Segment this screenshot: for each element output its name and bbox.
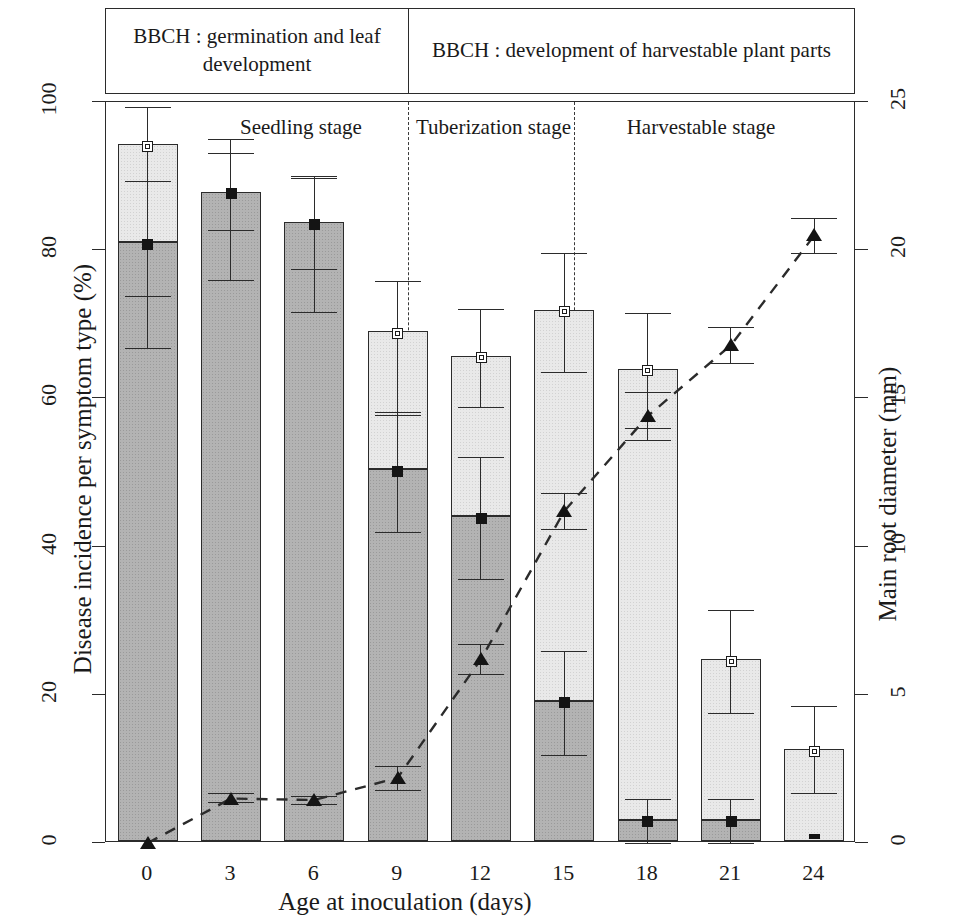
marker-total-incidence-day-0[interactable]	[142, 141, 153, 152]
error-cap-top-total-day-12	[458, 309, 504, 310]
error-cap-bottom-total-day-12	[458, 407, 504, 408]
error-cap-top-root-day-18	[625, 392, 671, 393]
marker-dark-incidence-day-24[interactable]	[809, 834, 820, 839]
y-tick-label-left: 60	[36, 355, 62, 435]
error-cap-top-total-day-24	[791, 706, 837, 707]
error-cap-bottom-root-day-18	[625, 440, 671, 441]
marker-total-incidence-day-9[interactable]	[392, 328, 403, 339]
error-cap-top-total-day-15	[541, 253, 587, 254]
bbch-box-germination: BBCH : germination and leaf development	[106, 9, 409, 93]
y-tick-right	[855, 546, 868, 547]
error-cap-top-total-day-0	[125, 107, 171, 108]
plot-area: Seedling stage Tuberization stage Harves…	[105, 101, 855, 842]
y-tick-label-left: 100	[36, 59, 62, 139]
marker-total-incidence-day-15[interactable]	[559, 306, 570, 317]
marker-total-incidence-day-24[interactable]	[809, 746, 820, 757]
marker-dark-incidence-day-12[interactable]	[476, 513, 487, 524]
y-tick-label-right: 0	[885, 805, 911, 875]
error-cap-bottom-dark-day-21	[708, 843, 754, 844]
error-bar-dark-day-3	[230, 139, 231, 280]
y-tick-label-left: 20	[36, 652, 62, 732]
error-cap-top-root-day-21	[708, 327, 754, 328]
x-tick-label: 15	[533, 860, 593, 886]
y-tick-label-left: 40	[36, 504, 62, 584]
marker-dark-incidence-day-9[interactable]	[392, 466, 403, 477]
error-cap-bottom-dark-day-6	[291, 312, 337, 313]
y-tick-label-right: 25	[885, 64, 911, 134]
error-cap-top-dark-day-0	[125, 181, 171, 182]
marker-dark-incidence-day-0[interactable]	[142, 239, 153, 250]
bbch-header-band: BBCH : germination and leaf development …	[105, 8, 855, 94]
error-cap-bottom-dark-day-9	[375, 532, 421, 533]
y-tick-left	[92, 397, 105, 398]
y-tick-left	[92, 101, 105, 102]
bbch-box-harvestable: BBCH : development of harvestable plant …	[409, 9, 854, 93]
error-cap-top-dark-day-12	[458, 457, 504, 458]
error-bar-dark-day-0	[147, 181, 148, 348]
error-cap-top-total-day-18	[625, 313, 671, 314]
plot-inner: Seedling stage Tuberization stage Harves…	[106, 102, 854, 841]
error-cap-top-total-day-21	[708, 610, 754, 611]
y-tick-right	[855, 842, 868, 843]
error-cap-top-root-day-12	[458, 644, 504, 645]
marker-total-incidence-day-18[interactable]	[642, 365, 653, 376]
marker-dark-incidence-day-21[interactable]	[726, 816, 737, 827]
error-cap-top-total-day-9	[375, 281, 421, 282]
marker-total-incidence-day-12[interactable]	[476, 352, 487, 363]
y-tick-label-right: 5	[885, 657, 911, 727]
marker-root-diameter-day-21[interactable]	[723, 338, 739, 351]
marker-root-diameter-day-0[interactable]	[140, 836, 156, 849]
error-cap-bottom-dark-day-12	[458, 579, 504, 580]
y-tick-label-right: 10	[885, 509, 911, 579]
marker-dark-incidence-day-3[interactable]	[226, 188, 237, 199]
marker-dark-incidence-day-18[interactable]	[642, 816, 653, 827]
marker-root-diameter-day-15[interactable]	[556, 504, 572, 517]
x-tick-label: 6	[283, 860, 343, 886]
error-cap-bottom-root-day-12	[458, 674, 504, 675]
error-cap-bottom-dark-day-18	[625, 843, 671, 844]
error-cap-top-root-day-15	[541, 493, 587, 494]
error-cap-top-dark-day-3	[208, 139, 254, 140]
x-tick-label: 3	[200, 860, 260, 886]
marker-root-diameter-day-6[interactable]	[306, 793, 322, 806]
x-axis-title: Age at inoculation (days)	[205, 888, 605, 916]
error-cap-top-root-day-24	[791, 218, 837, 219]
y-tick-right	[855, 397, 868, 398]
x-tick-label: 0	[117, 860, 177, 886]
y-tick-right	[855, 101, 868, 102]
error-bar-dark-day-6	[314, 176, 315, 312]
y-tick-left	[92, 842, 105, 843]
x-tick-label: 18	[617, 860, 677, 886]
y-tick-right	[855, 694, 868, 695]
y-tick-label-left: 0	[36, 800, 62, 880]
error-cap-top-dark-day-15	[541, 651, 587, 652]
error-cap-bottom-root-day-9	[375, 790, 421, 791]
x-tick-label: 12	[450, 860, 510, 886]
error-cap-bottom-total-day-24	[791, 793, 837, 794]
error-cap-bottom-root-day-15	[541, 529, 587, 530]
marker-root-diameter-day-12[interactable]	[473, 652, 489, 665]
marker-total-incidence-day-21[interactable]	[726, 656, 737, 667]
y-tick-left	[92, 694, 105, 695]
y-tick-left	[92, 546, 105, 547]
marker-root-diameter-day-3[interactable]	[223, 792, 239, 805]
error-cap-bottom-total-day-15	[541, 372, 587, 373]
error-cap-top-dark-day-18	[625, 799, 671, 800]
error-cap-top-dark-day-21	[708, 799, 754, 800]
marker-root-diameter-day-18[interactable]	[640, 409, 656, 422]
y-tick-label-right: 20	[885, 212, 911, 282]
error-cap-bottom-dark-day-0	[125, 348, 171, 349]
x-tick-label: 24	[783, 860, 843, 886]
error-cap-top-root-day-9	[375, 766, 421, 767]
error-cap-bottom-root-day-21	[708, 363, 754, 364]
y-tick-label-right: 15	[885, 360, 911, 430]
marker-dark-incidence-day-6[interactable]	[309, 219, 320, 230]
marker-dark-incidence-day-15[interactable]	[559, 697, 570, 708]
y-axis-left-title: Disease incidence per symptom type (%)	[69, 164, 97, 774]
figure-root: BBCH : germination and leaf development …	[0, 0, 959, 920]
marker-root-diameter-day-24[interactable]	[806, 228, 822, 241]
error-cap-bottom-total-day-21	[708, 713, 754, 714]
error-cap-top-dark-day-6	[291, 176, 337, 177]
error-cap-bottom-dark-day-3	[208, 280, 254, 281]
marker-root-diameter-day-9[interactable]	[390, 771, 406, 784]
